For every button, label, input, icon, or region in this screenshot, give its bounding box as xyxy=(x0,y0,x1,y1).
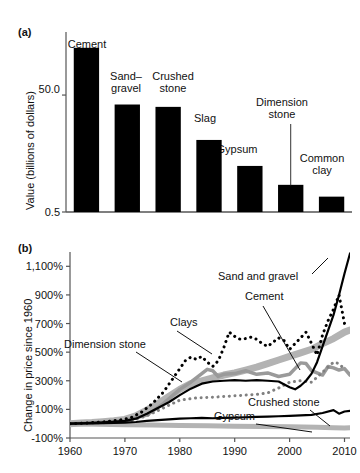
panel-b-xtick-label-2: 1980 xyxy=(168,445,192,457)
leader-line-dimension-stone xyxy=(136,352,182,382)
panel-b-plot-area: -100%100%300%500%700%900%1,100%196019701… xyxy=(0,236,360,473)
annotation-clays: Clays xyxy=(170,316,198,328)
panel-b-ytick-label-4: 700% xyxy=(35,318,63,330)
panel-b-ytick-label-1: 100% xyxy=(35,403,63,415)
bar-4 xyxy=(237,166,262,212)
bar-2 xyxy=(155,107,180,212)
annotation-crushed-stone: Crushed stone xyxy=(248,396,320,408)
annotation-sand-and-gravel: Sand and gravel xyxy=(218,270,298,282)
leader-line-sand-and-gravel xyxy=(312,258,328,274)
bar-5 xyxy=(278,185,303,212)
leader-line-clays xyxy=(177,331,212,354)
panel-b-ytick-label-5: 900% xyxy=(35,289,63,301)
bar-6 xyxy=(319,197,344,212)
panel-b-ytick-label-3: 500% xyxy=(35,346,63,358)
panel-b-ytick-label-6: 1,100% xyxy=(26,260,64,272)
panel-b-xtick-label-0: 1960 xyxy=(58,445,82,457)
panel-b-xtick-label-4: 2000 xyxy=(277,445,301,457)
annotation-cement: Cement xyxy=(245,290,284,302)
panel-b-xtick-label-1: 1970 xyxy=(113,445,137,457)
bar-0 xyxy=(74,48,99,212)
annotation-gypsum: Gypsum xyxy=(214,410,255,422)
bar-3 xyxy=(196,140,221,212)
panel-b-ytick-label-0: -100% xyxy=(31,432,63,444)
usgs-mineral-commodity-figure: (a) Value (billions of dollars) 50.0 0.5… xyxy=(0,0,360,473)
panel-b-xtick-label-3: 1990 xyxy=(222,445,246,457)
panel-b-xtick-label-5: 2010 xyxy=(332,445,356,457)
panel-b-line-chart: (b) Change in price since 1960 -100%100%… xyxy=(0,236,360,473)
panel-a-bar-chart: (a) Value (billions of dollars) 50.0 0.5… xyxy=(0,0,360,236)
panel-a-plot-area xyxy=(0,0,360,236)
annotation-dimension-stone: Dimension stone xyxy=(64,338,146,350)
panel-b-ytick-label-2: 300% xyxy=(35,375,63,387)
bar-1 xyxy=(115,105,140,212)
